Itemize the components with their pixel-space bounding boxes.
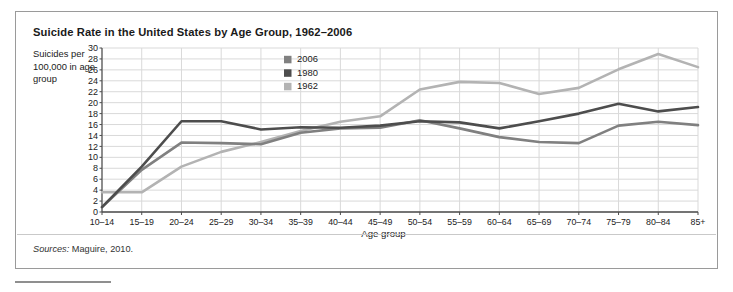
bottom-rule [15, 281, 111, 283]
y-tick-label: 12 [88, 142, 98, 152]
x-tick-label: 10–14 [90, 217, 115, 227]
x-tick-label: 35–39 [288, 217, 313, 227]
chart-title: Suicide Rate in the United States by Age… [33, 26, 352, 38]
y-tick-label: 30 [88, 44, 98, 53]
plot-area: 024681012141618202224262830 10–1415–1920… [76, 44, 706, 219]
x-tick-label: 50–54 [408, 217, 433, 227]
sources-value: Maguire, 2010. [72, 244, 133, 254]
y-tick-label: 28 [88, 54, 98, 64]
figure-card: Suicide Rate in the United States by Age… [15, 11, 718, 269]
legend-swatch-1962 [284, 83, 292, 91]
y-tick-label: 10 [88, 152, 98, 162]
legend-label-1962: 1962 [297, 80, 318, 91]
y-tick-label: 20 [88, 98, 98, 108]
data-series-lines [102, 54, 698, 207]
legend-label-2006: 2006 [297, 53, 318, 64]
legend-swatch-2006 [284, 56, 292, 64]
x-tick-label: 60–64 [487, 217, 512, 227]
legend-label-1980: 1980 [297, 67, 318, 78]
chart-legend: 200619801962 [284, 53, 318, 91]
x-tick-label: 85+ [691, 217, 706, 227]
x-tick-label: 25–29 [209, 217, 234, 227]
x-tick-labels: 10–1415–1920–2425–2930–3435–3940–4445–49… [90, 212, 706, 227]
x-tick-label: 45–49 [368, 217, 393, 227]
x-tick-label: 20–24 [169, 217, 194, 227]
x-tick-label: 40–44 [328, 217, 353, 227]
y-tick-label: 4 [93, 185, 98, 195]
x-tick-label: 15–19 [129, 217, 154, 227]
y-tick-label: 6 [93, 174, 98, 184]
line-chart-svg: 024681012141618202224262830 10–1415–1920… [76, 44, 706, 244]
y-tick-label: 16 [88, 120, 98, 130]
sources-note: Sources: Maguire, 2010. [33, 244, 133, 254]
y-tick-label: 2 [93, 196, 98, 206]
y-tick-label: 26 [88, 65, 98, 75]
x-tick-label: 75–79 [606, 217, 631, 227]
legend-swatch-1980 [284, 69, 292, 77]
y-tick-labels: 024681012141618202224262830 [88, 44, 102, 217]
y-tick-label: 24 [88, 76, 98, 86]
y-tick-label: 14 [88, 131, 98, 141]
x-tick-label: 70–74 [567, 217, 592, 227]
x-tick-label: 65–69 [527, 217, 552, 227]
y-tick-label: 18 [88, 109, 98, 119]
x-tick-label: 30–34 [249, 217, 274, 227]
series-line-1980 [102, 104, 698, 207]
sources-divider [17, 234, 716, 235]
x-tick-label: 80–84 [646, 217, 671, 227]
y-tick-label: 8 [93, 163, 98, 173]
sources-label: Sources: [33, 244, 69, 254]
x-tick-label: 55–59 [447, 217, 472, 227]
y-tick-label: 22 [88, 87, 98, 97]
